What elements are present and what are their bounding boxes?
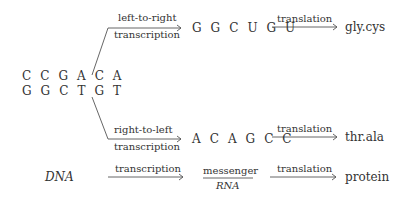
upper-transcription-label: transcription (114, 30, 180, 40)
lower-direction-label: right-to-left (114, 125, 172, 135)
upper-direction-label: left-to-right (118, 13, 176, 23)
summary-intermediate-top: messenger (203, 166, 258, 176)
lower-protein: thr.ala (345, 131, 384, 143)
upper-protein: gly.cys (345, 21, 385, 33)
lower-translation-label: translation (277, 124, 332, 134)
summary-translation-label: translation (277, 164, 332, 174)
lower-rna-sequence: A C A G C C (192, 133, 294, 145)
summary-product: protein (345, 171, 389, 183)
summary-source: DNA (45, 171, 74, 183)
upper-translation-label: translation (277, 14, 332, 24)
summary-intermediate-bottom: RNA (216, 181, 240, 191)
summary-transcription-label: transcription (115, 164, 181, 174)
lower-transcription-label: transcription (114, 142, 180, 152)
dna-top-strand: C C G A C A (22, 70, 124, 82)
dna-bottom-strand: G G C T G T (22, 85, 124, 97)
